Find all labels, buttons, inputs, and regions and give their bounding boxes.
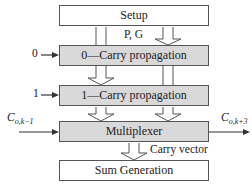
sum-generation-label: Sum Generation	[95, 163, 173, 178]
input-0-label: 0	[32, 47, 38, 59]
carry-propagation-0-block: 0—Carry propagation	[59, 45, 209, 66]
carry-out-label: Co,k+3	[221, 111, 248, 126]
carry-in-label: Co,k−1	[7, 111, 34, 126]
carry-propagation-0-label: 0—Carry propagation	[81, 48, 187, 63]
input-1-label: 1	[33, 87, 39, 99]
pg-label: P, G	[124, 28, 143, 40]
setup-block: Setup	[59, 5, 209, 26]
multiplexer-label: Multiplexer	[106, 124, 163, 139]
sum-generation-block: Sum Generation	[59, 160, 209, 181]
carry-vector-label: Carry vector	[150, 143, 208, 155]
carry-propagation-1-block: 1—Carry propagation	[59, 85, 209, 106]
multiplexer-block: Multiplexer	[59, 121, 209, 142]
setup-label: Setup	[120, 8, 147, 23]
carry-propagation-1-label: 1—Carry propagation	[81, 88, 187, 103]
